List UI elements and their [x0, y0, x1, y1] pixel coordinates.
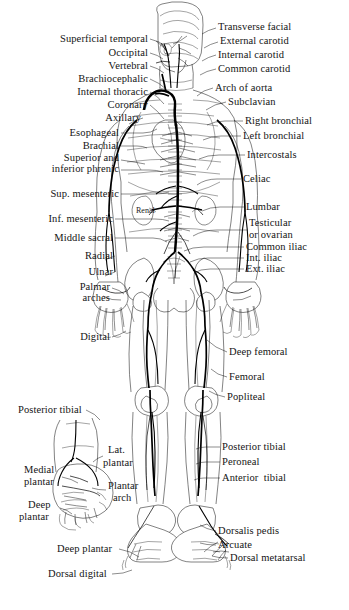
label-deep-plantar-lower: Deep plantar — [57, 543, 112, 555]
label-palmar-arches-1: Palmar — [80, 281, 110, 293]
label-digital: Digital — [80, 331, 110, 343]
label-testicular-2: or ovarian — [249, 229, 293, 241]
label-superior-and: Superior and — [64, 152, 119, 164]
label-vertebral: Vertebral — [109, 60, 148, 72]
label-superficial-temporal: Superficial temporal — [60, 33, 148, 45]
label-testicular-1: Testicular — [249, 217, 291, 229]
label-int-iliac: Int. iliac — [246, 252, 282, 264]
label-intercostals: Intercostals — [247, 149, 297, 161]
label-medial-plantar-1: Medial — [24, 464, 54, 476]
label-dorsal-metatarsal: Dorsal metatarsal — [230, 552, 305, 564]
label-deep-plantar-inset-1: Deep — [28, 499, 51, 511]
arterial-system-figure: Superficial temporalOccipitalVertebralBr… — [0, 0, 349, 610]
label-middle-sacral: Middle sacral — [54, 232, 113, 244]
label-plantar-arch-2: arch — [113, 492, 131, 504]
label-right-bronchial: Right bronchial — [245, 115, 312, 127]
label-coronary: Coronary — [108, 99, 148, 111]
label-ulnar: Ulnar — [89, 266, 113, 278]
label-plantar-arch-1: Plantar — [108, 480, 138, 492]
label-arcuate: Arcuate — [218, 539, 252, 551]
label-dorsalis-pedis: Dorsalis pedis — [218, 525, 279, 537]
label-esophageal: Esophageal — [70, 127, 119, 139]
label-lumbar: Lumbar — [246, 201, 280, 213]
label-celiac: Celiac — [243, 173, 270, 185]
label-common-iliac: Common iliac — [246, 241, 307, 253]
label-axillary: Axillary — [105, 112, 141, 124]
label-deep-femoral: Deep femoral — [229, 346, 288, 358]
label-peroneal: Peroneal — [222, 456, 260, 468]
label-transverse-facial: Transverse facial — [218, 21, 291, 33]
label-femoral: Femoral — [229, 371, 265, 383]
label-external-carotid: External carotid — [220, 35, 289, 47]
plantar-foot-inset — [53, 418, 113, 530]
label-arch-of-aorta: Arch of aorta — [215, 82, 272, 94]
label-internal-thoracic: Internal thoracic — [77, 86, 148, 98]
label-left-bronchial: Left bronchial — [243, 130, 304, 142]
label-internal-carotid: Internal carotid — [218, 49, 284, 61]
label-lat-plantar-2: plantar — [103, 457, 133, 469]
label-posterior-tibial-r: Posterior tibial — [222, 441, 286, 453]
label-radial: Radial — [85, 250, 113, 262]
label-posterior-tibial-inset: Posterior tibial — [18, 404, 82, 416]
label-popliteal: Popliteal — [227, 391, 265, 403]
label-inf-mesenteric: Inf. mesenteric — [49, 213, 113, 225]
label-deep-plantar-inset-2: plantar — [19, 511, 49, 523]
label-brachial: Brachial — [83, 140, 119, 152]
pelvis-bones — [125, 256, 224, 312]
label-brachiocephalic: Brachiocephalic — [78, 73, 148, 85]
label-inferior-phrenic: inferior phrenic — [52, 163, 119, 175]
label-renal: Renal — [136, 206, 155, 215]
left-leg-region — [122, 300, 181, 570]
label-palmar-arches-2: arches — [83, 292, 110, 304]
label-anterior-tibial: Anterior tibial — [222, 472, 286, 484]
label-dorsal-digital: Dorsal digital — [48, 568, 107, 580]
label-occipital: Occipital — [109, 47, 148, 59]
label-common-carotid: Common carotid — [218, 63, 290, 75]
label-sup-mesenteric: Sup. mesenteric — [50, 188, 119, 200]
label-subclavian: Subclavian — [228, 96, 276, 108]
label-medial-plantar-2: plantar — [24, 476, 54, 488]
label-ext-iliac: Ext. iliac — [246, 263, 285, 275]
anatomy-drawing — [0, 0, 349, 610]
label-lat-plantar-1: Lat. — [108, 444, 125, 456]
